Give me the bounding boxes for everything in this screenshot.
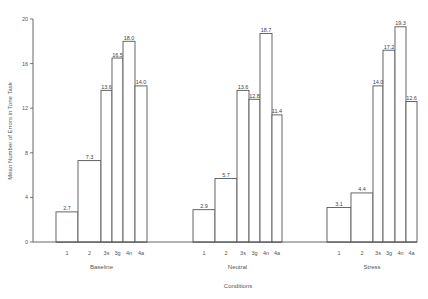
bar <box>351 193 373 242</box>
category-label: 1 <box>337 250 340 256</box>
bar <box>249 99 260 242</box>
bar <box>215 178 237 242</box>
bar <box>78 161 101 242</box>
y-tick-label: 20 <box>22 16 28 22</box>
group-label-baseline: Baseline <box>90 264 114 270</box>
bar <box>383 50 395 242</box>
bar <box>193 210 215 242</box>
bar <box>135 86 147 242</box>
bar-value-label: 3.1 <box>335 201 343 207</box>
category-label: 3g <box>386 250 392 256</box>
bar-value-label: 2.7 <box>63 205 71 211</box>
bar-value-label: 11.4 <box>272 108 282 114</box>
bar-value-label: 17.2 <box>384 44 395 50</box>
bar <box>260 33 272 242</box>
bar-value-label: 14.0 <box>136 79 147 85</box>
category-label: 3s <box>240 250 246 256</box>
bar <box>373 86 383 242</box>
group-label-neutral: Neutral <box>228 264 247 270</box>
bar-value-label: 5.7 <box>222 172 230 178</box>
category-label: 4n <box>263 250 269 256</box>
bar-value-label: 4.4 <box>358 186 366 192</box>
category-label: 3g <box>114 250 120 256</box>
bar-value-label: 7.3 <box>86 154 94 160</box>
category-label: 4a <box>408 250 415 256</box>
bar-value-label: 18.7 <box>261 27 272 33</box>
bar-value-label: 13.6 <box>238 84 249 90</box>
bar <box>327 207 351 242</box>
bar-group-neutral <box>193 33 282 242</box>
y-tick-label: 0 <box>25 239 28 245</box>
bar-group-baseline <box>56 41 147 242</box>
bar <box>101 90 112 242</box>
y-tick-label: 8 <box>25 150 28 156</box>
y-axis-title: Mean Number of Errors in Tone Task <box>7 81 13 179</box>
y-tick-label: 16 <box>22 61 28 67</box>
bar-value-label: 14.0 <box>373 79 384 85</box>
category-label: 3s <box>375 250 381 256</box>
bar-value-label: 12.6 <box>406 95 417 101</box>
category-label: 2 <box>224 250 227 256</box>
category-label: 3g <box>251 250 257 256</box>
bar-chart: 048121620 2.717.3213.63s16.53g18.04n14.0… <box>0 0 428 299</box>
category-label: 2 <box>360 250 363 256</box>
category-label: 1 <box>65 250 68 256</box>
category-label: 4n <box>126 250 132 256</box>
bar <box>56 212 78 242</box>
group-label-stress: Stress <box>363 264 380 270</box>
bar <box>395 27 406 242</box>
bar-value-label: 19.3 <box>395 20 406 26</box>
bar-value-label: 18.0 <box>124 35 135 41</box>
bar-group-stress <box>327 27 417 242</box>
y-tick-label: 12 <box>22 105 28 111</box>
category-label: 2 <box>88 250 91 256</box>
bar-value-label: 2.9 <box>200 203 208 209</box>
bar <box>112 58 123 242</box>
category-label: 1 <box>202 250 205 256</box>
bars <box>56 27 417 242</box>
category-label: 4n <box>397 250 403 256</box>
bar-value-label: 16.5 <box>112 52 123 58</box>
bar <box>272 115 282 242</box>
bar-value-label: 13.6 <box>101 84 112 90</box>
category-label: 4a <box>274 250 281 256</box>
y-tick-label: 4 <box>25 194 28 200</box>
bar <box>123 41 135 242</box>
category-label: 3s <box>104 250 110 256</box>
category-label: 4a <box>138 250 145 256</box>
bar <box>406 102 417 242</box>
bar-value-label: 12.8 <box>249 93 260 99</box>
bar <box>237 90 249 242</box>
x-axis-title: Conditions <box>224 283 252 289</box>
